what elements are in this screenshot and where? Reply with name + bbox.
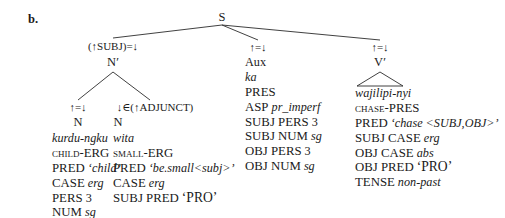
feature-value: ‘be.small<subj>’: [149, 161, 235, 175]
feature-row: TENSE non-past: [355, 175, 499, 190]
lexical-entry-n1: kurdu-ngku child-ERG PRED ‘child’ CASE e…: [52, 131, 121, 218]
annotation-aux: ↑=↓: [249, 41, 266, 53]
feature-row: CASE erg: [113, 176, 235, 191]
feature-row: OBJ CASE abs: [355, 146, 499, 161]
feature-attr: TENSE: [355, 175, 395, 189]
feature-attr: PRED: [52, 161, 85, 175]
triangle-left-edge: [357, 72, 380, 86]
feature-value: ‘PRO’: [417, 159, 453, 174]
feature-row: SUBJ PERS 3: [245, 115, 322, 130]
feature-row: ASP pr_imperf: [245, 100, 322, 115]
annotation-vbar: ↑=↓: [371, 41, 388, 53]
node-vbar: V′: [374, 55, 386, 70]
feature-value: sg: [304, 159, 315, 173]
form-n2: wita: [113, 131, 235, 146]
feature-row: SUBJ NUM sg: [245, 129, 322, 144]
feature-attr: NUM: [52, 205, 82, 218]
feature-row: OBJ NUM sg: [245, 159, 322, 174]
feature-attr: CASE: [113, 176, 146, 190]
feature-row: CASE erg: [52, 176, 121, 191]
feature-attr: ASP: [245, 100, 268, 114]
branch-s-to-v: [222, 25, 380, 40]
feature-row: OBJ PERS 3: [245, 144, 322, 159]
node-aux: Aux: [245, 55, 322, 70]
feature-row: PRED ‘child’: [52, 161, 121, 176]
feature-attr: OBJ PRED: [355, 160, 414, 174]
form-aux: ka: [245, 70, 322, 85]
form-n1: kurdu-ngku: [52, 131, 121, 146]
node-s: S: [219, 10, 226, 25]
annotation-subj: (↑SUBJ)=↓: [88, 40, 138, 52]
feature-value: 3: [86, 191, 92, 205]
example-label: b.: [28, 12, 38, 27]
gloss-n2: small-ERG: [113, 146, 235, 161]
feature-attr: PRED: [355, 116, 388, 130]
node-n1: N: [73, 115, 82, 130]
feature-attr: SUBJ PERS: [245, 115, 309, 129]
feature-value: erg: [88, 176, 104, 190]
feature-value: erg: [424, 131, 440, 145]
branch-s-to-aux: [222, 25, 258, 40]
form-verb: wajilipi-nyi: [355, 86, 499, 101]
branch-nbar-to-n1: [78, 72, 113, 100]
triangle-right-edge: [380, 72, 403, 86]
lexical-entry-verb: wajilipi-nyi chase-PRES PRED ‘chase <SUB…: [355, 86, 499, 190]
feature-attr: SUBJ PRED: [113, 191, 179, 205]
feature-row: NUM sg: [52, 205, 121, 218]
feature-attr: OBJ PERS: [245, 144, 302, 158]
feature-value: sg: [311, 129, 322, 143]
feature-value: sg: [85, 205, 96, 218]
annotation-n1: ↑=↓: [69, 101, 86, 113]
feature-attr: PERS: [52, 191, 83, 205]
feature-attr: SUBJ NUM: [245, 129, 308, 143]
node-nbar: N′: [107, 55, 119, 70]
feature-value: abs: [417, 146, 434, 160]
feature-value: 3: [305, 144, 311, 158]
feature-row: PRED ‘chase <SUBJ,OBJ>’: [355, 116, 499, 131]
feature-attr: OBJ CASE: [355, 146, 414, 160]
lexical-entry-n2: wita small-ERG PRED ‘be.small<subj>’ CAS…: [113, 131, 235, 205]
feature-value: ‘PRO’: [182, 190, 218, 205]
feature-row: PERS 3: [52, 191, 121, 206]
feature-value: non-past: [398, 175, 441, 189]
feature-attr: SUBJ CASE: [355, 131, 421, 145]
feature-attr: CASE: [52, 176, 85, 190]
lexical-entry-aux: Aux ka PRES ASP pr_imperf SUBJ PERS 3 SU…: [245, 55, 322, 174]
feature-row: PRED ‘be.small<subj>’: [113, 161, 235, 176]
feature-attr: PRED: [113, 161, 146, 175]
gloss-n1: child-ERG: [52, 146, 121, 161]
branch-nbar-to-n2: [113, 72, 150, 100]
feature-row: SUBJ CASE erg: [355, 131, 499, 146]
feature-value: erg: [149, 176, 165, 190]
gloss-aux: PRES: [245, 85, 322, 100]
gloss-verb: chase-PRES: [355, 101, 499, 116]
annotation-n2: ↓∈(↑ADJUNCT): [117, 101, 194, 114]
feature-row: OBJ PRED ‘PRO’: [355, 160, 499, 175]
branch-s-to-subj: [113, 25, 222, 38]
feature-attr: OBJ NUM: [245, 159, 301, 173]
feature-value: 3: [312, 115, 318, 129]
feature-row: SUBJ PRED ‘PRO’: [113, 191, 235, 206]
feature-value: pr_imperf: [272, 100, 321, 114]
node-n2: N: [113, 115, 122, 130]
feature-value: ‘chase <SUBJ,OBJ>’: [391, 116, 499, 130]
lfg-c-structure-figure: b. S (↑SUBJ)=↓ N′ ↑=↓ N kurdu-ngku child…: [0, 0, 505, 218]
